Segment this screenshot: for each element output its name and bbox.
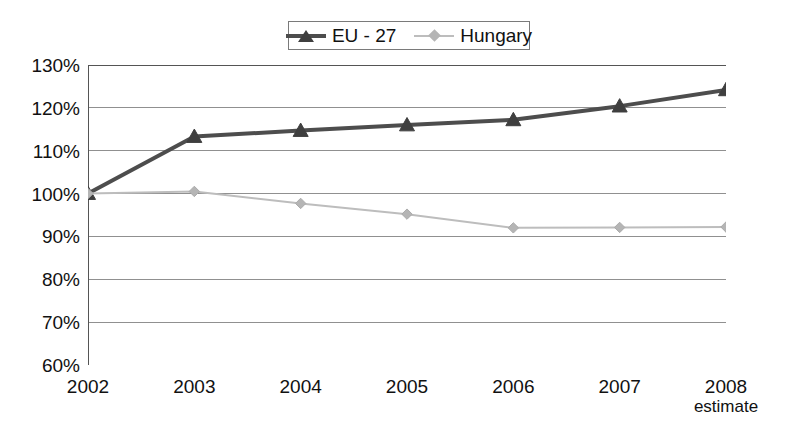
y-axis-label-100: 100% (0, 185, 80, 204)
x-axis-tick-labels: 2002200320042005200620072008estimate (88, 376, 726, 436)
data-point-hungary-2003 (189, 186, 199, 196)
y-axis-label-130: 130% (0, 56, 80, 75)
y-axis-label-90: 90% (0, 227, 80, 246)
x-axis-label-2008: 2008estimate (671, 376, 781, 417)
plot-svg (88, 65, 726, 365)
x-axis-label-2005: 2005 (352, 376, 462, 397)
data-point-hungary-2007 (614, 222, 624, 232)
y-axis-label-110: 110% (0, 142, 80, 161)
x-axis-label-year: 2003 (173, 376, 215, 397)
x-axis-label-year: 2008 (705, 376, 747, 397)
y-axis-label-60: 60% (0, 356, 80, 375)
data-point-hungary-2006 (508, 223, 518, 233)
x-axis-label-sublabel: estimate (671, 397, 781, 417)
data-point-hungary-2008 (721, 222, 726, 232)
y-axis-label-120: 120% (0, 99, 80, 118)
x-axis-label-year: 2007 (599, 376, 641, 397)
plot-area (88, 65, 726, 365)
x-axis-label-year: 2006 (492, 376, 534, 397)
x-axis-label-year: 2005 (386, 376, 428, 397)
data-point-hungary-2005 (402, 209, 412, 219)
chart-legend: EU - 27 Hungary (288, 21, 530, 50)
legend-marker-triangle-icon (286, 28, 326, 44)
legend-label-hungary: Hungary (460, 26, 532, 45)
x-axis-label-year: 2002 (67, 376, 109, 397)
data-point-hungary-2004 (295, 198, 305, 208)
legend-marker-diamond-icon (414, 28, 454, 44)
x-axis-label-2006: 2006 (458, 376, 568, 397)
x-axis-label-2004: 2004 (246, 376, 356, 397)
y-axis-label-70: 70% (0, 313, 80, 332)
x-axis-label-2003: 2003 (139, 376, 249, 397)
legend-entry-hungary[interactable]: Hungary (414, 26, 532, 45)
series-line-eu-27 (88, 90, 726, 194)
x-axis-label-2007: 2007 (565, 376, 675, 397)
legend-entry-eu-27[interactable]: EU - 27 (286, 26, 396, 45)
y-axis-label-80: 80% (0, 270, 80, 289)
x-axis-label-2002: 2002 (33, 376, 143, 397)
line-chart: EU - 27 Hungary 130%120%110%100%90%80%70… (0, 0, 785, 444)
y-axis-tick-labels: 130%120%110%100%90%80%70%60% (0, 65, 80, 365)
legend-label-eu-27: EU - 27 (332, 26, 396, 45)
x-axis-label-year: 2004 (280, 376, 322, 397)
